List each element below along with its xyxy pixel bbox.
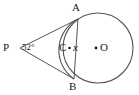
label-point-b: B [69,81,76,92]
label-center-o: O [100,42,108,53]
label-angle-x: x [73,42,78,53]
geometry-figure: P A B C x O 52° [0,0,139,95]
label-point-c: C [59,42,66,53]
point-dot-c [68,47,71,50]
label-point-a: A [72,2,80,13]
label-angle-52-degrees: 52° [22,43,35,52]
label-point-p: P [3,42,9,53]
center-dot-o [95,47,98,50]
